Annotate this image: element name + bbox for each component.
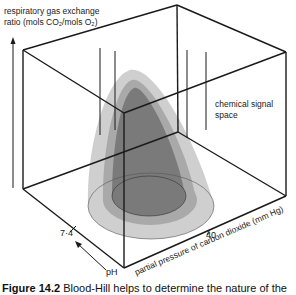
y-axis-arrow [11,37,16,188]
caption-text: Blood-Hill helps to determine the nature… [63,282,287,294]
ph-axis-arrow [75,241,106,270]
region-label-line1: chemical signal [215,99,273,109]
y-axis-label-line1: respiratory gas exchange [4,6,99,16]
chemical-signal-space-diagram [0,0,296,295]
figure-caption: Figure 14.2 Blood-Hill helps to determin… [2,282,287,294]
z-axis-label: pH [106,267,118,277]
caption-number: Figure 14.2 [2,282,60,294]
y-axis-label-line2: ratio (mols CO₂/mols O₂) [4,17,98,27]
region-label-line2: space [215,110,238,120]
ph-tick-label: 7·4 [60,228,73,238]
